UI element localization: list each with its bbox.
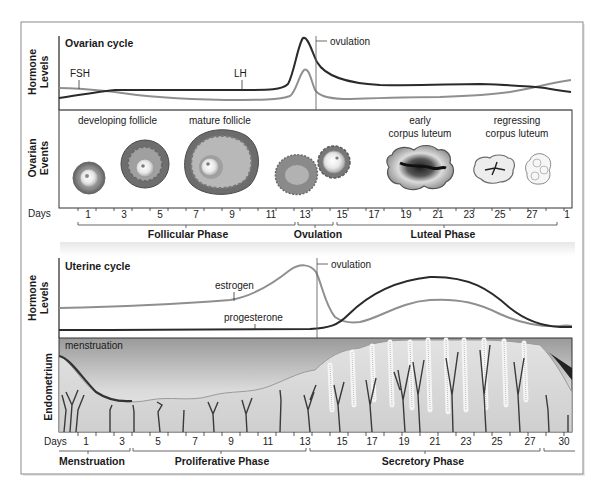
uterine-day-23: 23 [460, 436, 472, 447]
regressing-corpus-luteum-label-2: corpus luteum [486, 128, 549, 139]
lh-label: LH [234, 68, 247, 79]
regressing-corpus-luteum-label-1: regressing [494, 115, 541, 126]
uterine-hormone-axis-label-2: Levels [38, 282, 50, 315]
secretory-phase-label: Secretory Phase [382, 455, 464, 467]
ovarian-days-label: Days [28, 208, 51, 219]
ovarian-events-axis-label-1: Ovarian [26, 138, 38, 177]
luteal-phase-label: Luteal Phase [411, 228, 476, 240]
follicular-phase-label: Follicular Phase [148, 228, 229, 240]
progesterone-label: progesterone [224, 312, 283, 323]
ovarian-day-17: 17 [368, 209, 380, 220]
uterine-day-7: 7 [192, 436, 198, 447]
menstruation-phase-label: Menstruation [59, 455, 125, 467]
endometrium-axis-label: Endometrium [42, 353, 54, 421]
ovarian-day-19: 19 [400, 209, 412, 220]
early-corpus-luteum [387, 146, 454, 190]
uterine-day-9: 9 [228, 436, 234, 447]
ovarian-day-25: 25 [494, 209, 506, 220]
menstruation-caption: menstruation [65, 340, 123, 351]
developing-follicle-label: developing follicle [78, 115, 157, 126]
ovarian-day-11: 11 [266, 209, 277, 220]
uterine-day-13: 13 [299, 436, 311, 447]
ovarian-hormone-axis-label-1: Hormone [26, 49, 38, 95]
endometrium-illustration [59, 338, 572, 432]
uterine-day-19: 19 [398, 436, 410, 447]
ovarian-day-27: 27 [526, 209, 538, 220]
proliferative-phase-label: Proliferative Phase [175, 455, 270, 467]
ovarian-events-axis-label-2: Events [38, 141, 50, 176]
ovarian-day-3: 3 [121, 209, 127, 220]
ovulation-phase-label: Ovulation [294, 228, 342, 240]
ovarian-cycle-title: Ovarian cycle [65, 37, 133, 49]
ovulation-label-ovarian: ovulation [330, 36, 370, 47]
regressing-corpus-luteum [474, 155, 515, 183]
fsh-label: FSH [70, 68, 90, 79]
ovarian-day-23: 23 [463, 209, 475, 220]
uterine-day-15: 15 [336, 436, 348, 447]
uterine-day-11: 11 [263, 436, 274, 447]
released-oocyte [318, 146, 350, 178]
ovarian-day-5: 5 [157, 209, 163, 220]
developing-follicle-small [73, 162, 105, 194]
uterine-days-label: Days [44, 436, 67, 447]
mature-follicle [185, 130, 259, 195]
ruptured-follicle [275, 155, 317, 195]
menstrual-cycle-diagram: Hormone Levels Ovarian Events Ovarian cy… [0, 0, 598, 488]
uterine-day-21: 21 [429, 436, 441, 447]
uterine-day-25: 25 [491, 436, 503, 447]
uterine-cycle-title: Uterine cycle [65, 260, 131, 272]
uterine-day-5: 5 [155, 436, 161, 447]
ovarian-day-1-next: 1 [564, 209, 570, 220]
uterine-day-17: 17 [366, 436, 378, 447]
uterine-hormone-axis-label-1: Hormone [26, 275, 38, 321]
ovulation-label-uterine: ovulation [331, 259, 371, 270]
ovarian-day-1: 1 [85, 209, 91, 220]
early-corpus-luteum-label-1: early [409, 115, 431, 126]
ovarian-day-9: 9 [229, 209, 235, 220]
ovarian-hormone-axis-label-2: Levels [38, 56, 50, 89]
ovarian-day-13: 13 [299, 209, 311, 220]
uterine-day-1: 1 [83, 436, 89, 447]
ovarian-day-21: 21 [432, 209, 444, 220]
section-separator [60, 242, 575, 256]
early-corpus-luteum-label-2: corpus luteum [389, 128, 452, 139]
ovarian-day-15: 15 [336, 209, 348, 220]
uterine-day-30: 30 [558, 436, 570, 447]
uterine-day-3: 3 [119, 436, 125, 447]
uterine-day-27: 27 [524, 436, 536, 447]
ovarian-day-7: 7 [193, 209, 199, 220]
developing-follicle-medium [121, 140, 169, 188]
estrogen-label: estrogen [215, 280, 254, 291]
mature-follicle-label: mature follicle [189, 115, 251, 126]
